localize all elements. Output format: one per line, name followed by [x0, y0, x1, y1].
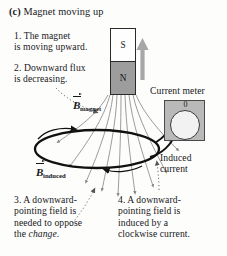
magnet-south-label: S	[120, 40, 125, 50]
figure-magnet-moving-up: S N 0 (c) Magnet moving up 1. The magnet…	[0, 0, 227, 256]
note-3-end: .	[57, 228, 60, 239]
magnet-north-label: N	[120, 73, 127, 83]
figure-title: (c) Magnet moving up	[9, 6, 103, 18]
note-4: 4. A downward- pointing field is induced…	[118, 194, 190, 239]
induced-current-caption: Induced current	[160, 152, 192, 175]
meter-scale-label: 0	[165, 100, 206, 109]
current-meter-caption: Current meter	[150, 85, 205, 96]
figure-title-text: Magnet moving up	[23, 6, 103, 17]
note-3: 3. A downward- pointing field is needed …	[14, 194, 82, 239]
meter-dial	[170, 110, 200, 140]
b-magnet-vector-label: Bmagnet	[73, 95, 102, 113]
magnet-north-pole: N	[111, 62, 135, 95]
figure-label: (c)	[9, 6, 21, 17]
current-meter: 0	[164, 100, 205, 141]
b-magnet-subscript: magnet	[80, 105, 101, 112]
b-induced-subscript: induced	[43, 172, 66, 179]
bar-magnet: S N	[110, 28, 136, 95]
leader-note4	[157, 163, 159, 190]
note-3-emphasis: change	[29, 228, 57, 239]
magnet-south-pole: S	[111, 29, 135, 62]
b-induced-vector-label: Binduced	[36, 162, 66, 180]
magnet-motion-arrow-icon	[136, 38, 148, 80]
note-1: 1. The magnet is moving upward.	[14, 30, 87, 53]
note-2: 2. Downward flux is decreasing.	[14, 62, 86, 85]
